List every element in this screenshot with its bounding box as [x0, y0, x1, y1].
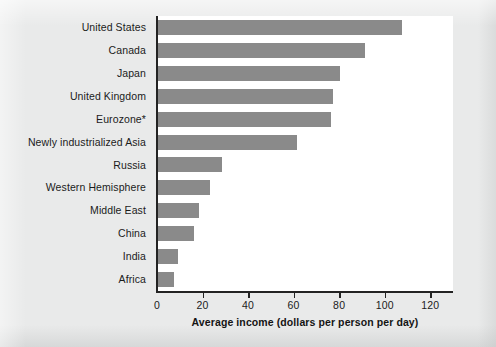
category-label: Eurozone* — [0, 108, 152, 131]
bar-row — [158, 85, 333, 108]
bar-row — [158, 199, 199, 222]
bar-row — [158, 176, 210, 199]
category-label: United Kingdom — [0, 85, 152, 108]
bar — [158, 135, 297, 150]
category-axis-labels: United StatesCanadaJapanUnited KingdomEu… — [0, 16, 152, 291]
chart-page: United StatesCanadaJapanUnited KingdomEu… — [0, 0, 496, 347]
bar — [158, 66, 340, 81]
category-label: Russia — [0, 154, 152, 177]
category-label: Middle East — [0, 199, 152, 222]
bar-row — [158, 131, 297, 154]
bar — [158, 226, 194, 241]
x-axis-tick-label: 0 — [154, 299, 160, 311]
x-axis-tick — [430, 293, 432, 298]
bar-row — [158, 245, 178, 268]
bar-row — [158, 39, 365, 62]
category-label: Africa — [0, 268, 152, 291]
x-axis-tick — [385, 293, 387, 298]
bar-row — [158, 222, 194, 245]
bar — [158, 272, 174, 287]
x-axis-tick — [294, 293, 296, 298]
x-axis-tick-label: 60 — [288, 299, 300, 311]
bar — [158, 180, 210, 195]
category-label: China — [0, 222, 152, 245]
bar-row — [158, 16, 402, 39]
x-axis-tick-label: 20 — [196, 299, 208, 311]
x-axis-tick — [203, 293, 205, 298]
bar-row — [158, 268, 174, 291]
x-axis-line — [156, 291, 453, 293]
bar-row — [158, 62, 340, 85]
x-axis-tick-label: 80 — [333, 299, 345, 311]
x-axis-tick-label: 120 — [421, 299, 439, 311]
bar — [158, 203, 199, 218]
bar-row — [158, 154, 222, 177]
bar-series — [158, 16, 453, 291]
category-label: Newly industrialized Asia — [0, 131, 152, 154]
bar — [158, 112, 331, 127]
category-label: Japan — [0, 62, 152, 85]
x-axis-title: Average income (dollars per person per d… — [157, 316, 453, 328]
bar — [158, 89, 333, 104]
category-label: India — [0, 245, 152, 268]
bar — [158, 157, 222, 172]
bar — [158, 249, 178, 264]
bar-row — [158, 108, 331, 131]
x-axis-tick-label: 40 — [242, 299, 254, 311]
x-axis-tick-label: 100 — [376, 299, 394, 311]
bar — [158, 43, 365, 58]
category-label: Western Hemisphere — [0, 176, 152, 199]
x-axis-tick — [248, 293, 250, 298]
x-axis-tick — [339, 293, 341, 298]
category-label: Canada — [0, 39, 152, 62]
bar — [158, 20, 402, 35]
category-label: United States — [0, 16, 152, 39]
